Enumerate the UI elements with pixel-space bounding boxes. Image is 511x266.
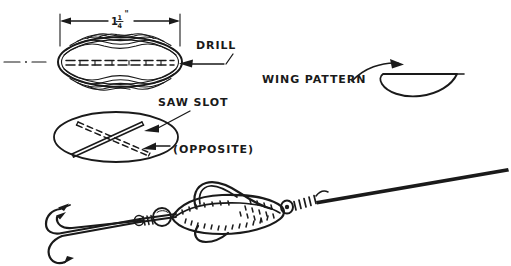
lure-construction-figure: 1 1 4 " [0,0,511,266]
figure-background [0,0,511,266]
dimension-denominator: 4 [118,22,123,30]
opposite-label: (OPPOSITE) [173,143,254,156]
figure-canvas: 1 1 4 " [0,0,511,266]
dimension-inch-mark: " [125,10,130,19]
wing-pattern-label: WING PATTERN [262,73,366,86]
drill-label: DRILL [196,39,236,52]
dimension-numerator: 1 [118,14,123,22]
saw-slot-label: SAW SLOT [158,96,229,109]
